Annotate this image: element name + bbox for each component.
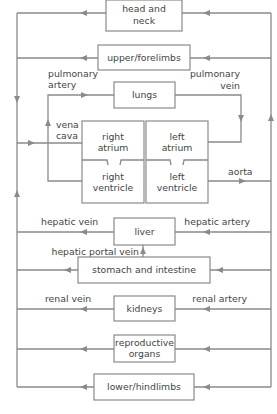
left-atrium-label-2: atrium: [162, 142, 193, 153]
renal-artery-label: renal artery: [192, 293, 247, 304]
arrow-up-icon: [140, 247, 146, 254]
arrow-right-icon: [28, 140, 35, 146]
arrow-up-icon: [45, 119, 51, 126]
stomach-intestine-label: stomach and intestine: [92, 264, 196, 275]
arrow-left-icon: [203, 306, 210, 312]
hepatic-artery-label: hepatic artery: [184, 216, 250, 227]
arrow-left-icon: [80, 384, 87, 390]
arrow-left-icon: [80, 10, 87, 16]
arrow-left-icon: [203, 55, 210, 61]
pulmonary-vein-label-1: pulmonary: [190, 68, 241, 79]
pulmonary-vein-label-2: vein: [220, 80, 240, 91]
aorta-label: aorta: [228, 166, 253, 177]
arrow-down-icon: [14, 96, 20, 103]
right-atrium-label-1: right: [102, 131, 124, 142]
right-ventricle-label-2: ventricle: [93, 182, 134, 193]
arrow-right-icon: [81, 92, 88, 98]
right-atrium-label-2: atrium: [98, 142, 129, 153]
head-neck-label-1: head and: [122, 3, 166, 14]
arrow-left-icon: [80, 55, 87, 61]
left-ventricle-label-2: ventricle: [157, 182, 198, 193]
arrow-left-icon: [216, 267, 223, 273]
arrow-right-icon: [239, 178, 246, 184]
lungs-label: lungs: [132, 89, 157, 100]
arrow-left-icon: [203, 10, 210, 16]
reproductive-label-1: reproductive: [115, 337, 174, 348]
renal-vein-label: renal vein: [45, 293, 91, 304]
left-atrium-label-1: left: [169, 131, 184, 142]
arrow-down-icon: [238, 115, 244, 122]
arrow-left-icon: [203, 346, 210, 352]
arrow-left-icon: [64, 267, 71, 273]
liver-label: liver: [134, 226, 154, 237]
arrow-left-icon: [80, 306, 87, 312]
kidneys-label: kidneys: [127, 303, 163, 314]
arrow-up-icon: [268, 114, 274, 121]
vena-cava-label-1: vena: [56, 119, 79, 130]
hepatic-portal-vein-label: hepatic portal vein: [52, 246, 140, 257]
upper-limbs-label: upper/forelimbs: [107, 52, 181, 63]
pulmonary-artery-label-1: pulmonary: [48, 68, 99, 79]
arrow-up-icon: [14, 190, 20, 197]
left-ventricle-label-1: left: [169, 171, 184, 182]
arrow-left-icon: [203, 229, 210, 235]
circulatory-diagram: head and neck upper/forelimbs pulmonary …: [0, 0, 277, 414]
arrow-left-icon: [80, 346, 87, 352]
head-neck-label-2: neck: [133, 15, 156, 26]
arrow-left-icon: [203, 384, 210, 390]
arrow-left-icon: [80, 229, 87, 235]
reproductive-label-2: organs: [129, 348, 161, 359]
right-ventricle-label-1: right: [102, 171, 124, 182]
vena-cava-label-2: cava: [56, 130, 78, 141]
pulmonary-artery-label-2: artery: [48, 79, 77, 90]
hepatic-vein-label: hepatic vein: [41, 216, 98, 227]
lower-limbs-label: lower/hindlimbs: [107, 381, 181, 392]
